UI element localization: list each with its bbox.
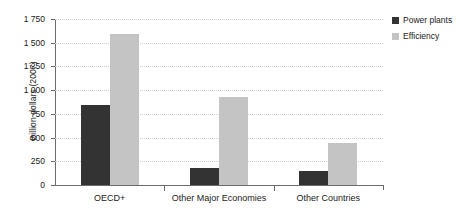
y-axis-tick-label: 500 xyxy=(0,133,45,143)
x-axis-category-label: OECD+ xyxy=(55,193,164,203)
legend: Power plants Efficiency xyxy=(392,12,452,44)
legend-label-power-plants: Power plants xyxy=(403,15,452,25)
y-axis-tick-label: 1 000 xyxy=(0,85,45,95)
bar xyxy=(110,34,139,185)
legend-item-efficiency: Efficiency xyxy=(392,28,452,44)
legend-swatch-icon-efficiency xyxy=(392,33,399,40)
x-axis-category-label: Other Countries xyxy=(274,193,383,203)
y-axis-tick-label: 250 xyxy=(0,156,45,166)
legend-item-power-plants: Power plants xyxy=(392,12,452,28)
gridline xyxy=(55,19,383,20)
bar xyxy=(299,171,328,185)
legend-label-efficiency: Efficiency xyxy=(403,31,439,41)
x-axis-group-separator-tick xyxy=(274,186,275,191)
y-axis-tick-label: 1 750 xyxy=(0,14,45,24)
bar-chart-figure: Billion dollars (2007) 02505007501 0001 … xyxy=(0,0,460,213)
x-axis-line xyxy=(55,185,384,186)
x-axis-group-separator-tick xyxy=(164,186,165,191)
y-axis-tick-label: 0 xyxy=(0,180,45,190)
gridline xyxy=(55,90,383,91)
bar xyxy=(219,97,248,185)
y-axis-tick-label: 1 500 xyxy=(0,38,45,48)
y-axis-tick-label: 1 250 xyxy=(0,61,45,71)
y-axis-tick-label: 750 xyxy=(0,109,45,119)
x-axis-end-tick xyxy=(383,185,384,190)
bar xyxy=(81,105,110,185)
legend-swatch-icon-power-plants xyxy=(392,17,399,24)
gridline xyxy=(55,66,383,67)
bar xyxy=(190,168,219,185)
x-axis-category-label: Other Major Economies xyxy=(164,193,273,203)
plot-area xyxy=(55,19,383,185)
bar xyxy=(328,143,357,185)
gridline xyxy=(55,43,383,44)
